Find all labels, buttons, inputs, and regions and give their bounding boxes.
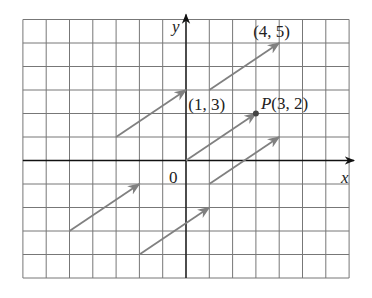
point-p [253,111,259,117]
coordinate-plane: xy0(4, 5)(1, 3)P(3, 2) [0,0,372,298]
vectors [70,43,280,255]
vector-diagram: xy0(4, 5)(1, 3)P(3, 2) [0,0,372,298]
y-axis-label: y [170,17,180,36]
point-label: P(3, 2) [260,94,308,113]
point-label: (4, 5) [253,22,290,41]
point-label: (1, 3) [188,95,225,114]
origin-label: 0 [169,168,178,187]
axes [23,15,354,279]
x-axis-label: x [340,168,349,187]
